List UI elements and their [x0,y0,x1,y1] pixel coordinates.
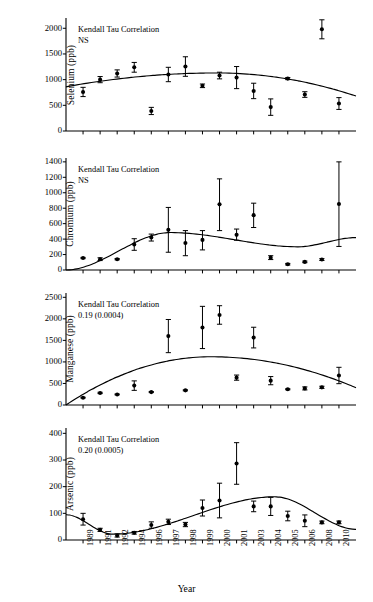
x-axis-title: Year [0,583,373,594]
x-tick-label: 2004 [274,529,283,546]
x-tick-label: 1999 [206,529,215,546]
x-axis-tick-labels: 1989199119921994199619971998199920002001… [0,0,373,602]
x-tick-label: 2001 [240,529,249,546]
x-tick-label: 1996 [155,529,164,546]
x-tick-label: 2010 [342,529,351,546]
x-tick-label: 2000 [223,529,232,546]
x-tick-label: 2006 [308,529,317,546]
x-tick-label: 1997 [172,529,181,546]
x-tick-label: 1994 [138,529,147,546]
x-tick-label: 2008 [325,529,334,546]
figure-four-panel-metal-trends: 0500100015002000Selenium (ppb)Kendall Ta… [0,0,373,602]
x-tick-label: 2005 [291,529,300,546]
x-tick-label: 1989 [86,529,95,546]
x-tick-label: 1992 [121,529,130,546]
x-tick-label: 1998 [189,529,198,546]
x-tick-label: 1991 [104,529,113,546]
x-tick-label: 2003 [257,529,266,546]
